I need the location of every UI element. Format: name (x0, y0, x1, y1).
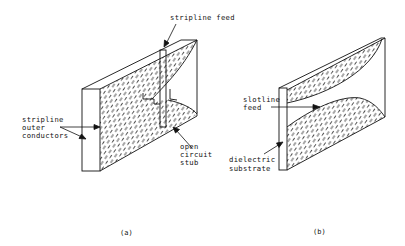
label-substrate-2: substrate (229, 165, 271, 173)
caption-b: (b) (313, 228, 326, 236)
label-stripline-feed: stripline feed (170, 14, 235, 22)
label-substrate-1: dielectric (229, 156, 275, 164)
upper-fin-hatched (287, 39, 382, 103)
label-slotline-2: feed (243, 104, 262, 112)
substrate-front (279, 88, 287, 170)
caption-a: (a) (120, 229, 133, 237)
panel-b-drawing (279, 38, 385, 170)
front-face (82, 89, 100, 171)
lower-fin-hatched (287, 98, 385, 170)
label-outer-conductors-3: conductors (22, 132, 68, 140)
label-stub-3: stub (180, 159, 199, 167)
